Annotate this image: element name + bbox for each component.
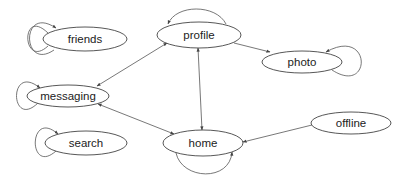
node-home: home	[163, 130, 243, 156]
node-label-photo: photo	[288, 56, 317, 68]
node-photo: photo	[262, 51, 342, 73]
node-label-profile: profile	[183, 29, 214, 41]
node-label-offline: offline	[336, 117, 366, 129]
node-offline: offline	[311, 112, 391, 134]
state-diagram: friends profile photo messaging search h…	[0, 0, 408, 181]
node-search: search	[45, 131, 127, 155]
node-label-home: home	[189, 137, 218, 149]
edge-profile-photo	[234, 43, 270, 52]
edge-offline-home	[243, 125, 312, 142]
node-friends: friends	[43, 27, 127, 51]
edge-messaging-home	[98, 104, 174, 134]
node-label-search: search	[69, 137, 104, 149]
node-label-friends: friends	[68, 33, 103, 45]
edge-profile-home	[198, 48, 202, 130]
node-profile: profile	[157, 22, 241, 48]
node-label-messaging: messaging	[40, 90, 96, 102]
node-messaging: messaging	[27, 85, 109, 107]
